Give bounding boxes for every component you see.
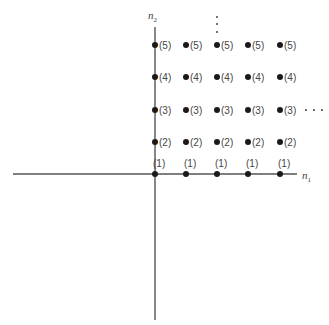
point-dot	[152, 139, 158, 145]
point-dot	[277, 171, 283, 177]
point-dot	[214, 171, 220, 177]
point-dot	[277, 42, 283, 48]
point-label: (2)	[190, 137, 202, 148]
point-label: (2)	[159, 137, 171, 148]
point-label: (1)	[246, 158, 258, 169]
point-label: (3)	[221, 105, 233, 116]
lattice-points: (5)(5)(5)(5)(5)(4)(4)(4)(4)(4)(3)(3)(3)(…	[152, 40, 296, 178]
lattice-point: (4)	[277, 72, 296, 83]
lattice-point: (3)	[277, 105, 296, 116]
point-dot	[152, 42, 158, 48]
point-dot	[183, 107, 189, 113]
point-label: (3)	[252, 105, 264, 116]
lattice-point: (4)	[245, 72, 264, 83]
point-label: (1)	[278, 158, 290, 169]
point-label: (5)	[159, 40, 171, 51]
point-label: (4)	[284, 72, 296, 83]
point-dot	[245, 107, 251, 113]
lattice-point: (2)	[183, 137, 202, 148]
lattice-point: (5)	[245, 40, 264, 51]
point-label: (2)	[221, 137, 233, 148]
point-dot	[183, 42, 189, 48]
point-dot	[245, 171, 251, 177]
point-label: (3)	[159, 105, 171, 116]
lattice-point: (3)	[214, 105, 233, 116]
point-dot	[277, 139, 283, 145]
lattice-point: (3)	[183, 105, 202, 116]
lattice-point: (5)	[214, 40, 233, 51]
point-label: (4)	[190, 72, 202, 83]
vertical-ellipsis	[216, 16, 218, 33]
point-dot	[183, 171, 189, 177]
lattice-point: (2)	[214, 137, 233, 148]
point-dot	[214, 42, 220, 48]
point-dot	[245, 74, 251, 80]
lattice-point: (4)	[214, 72, 233, 83]
lattice-point: (4)	[183, 72, 202, 83]
point-dot	[277, 107, 283, 113]
point-label: (4)	[159, 72, 171, 83]
point-label: (5)	[252, 40, 264, 51]
point-dot	[214, 74, 220, 80]
point-label: (2)	[252, 137, 264, 148]
lattice-diagram: n1 n2 (5)(5)(5)(5)(5)(4)(4)(4)(4)(4)(3)(…	[0, 0, 329, 325]
point-dot	[214, 107, 220, 113]
x-axis-label: n1	[302, 169, 312, 184]
lattice-point: (5)	[183, 40, 202, 51]
point-dot	[152, 171, 158, 177]
point-label: (3)	[190, 105, 202, 116]
point-label: (1)	[184, 158, 196, 169]
point-dot	[277, 74, 283, 80]
point-dot	[214, 139, 220, 145]
y-axis-label: n2	[148, 9, 158, 24]
point-label: (4)	[221, 72, 233, 83]
point-dot	[183, 74, 189, 80]
point-label: (4)	[252, 72, 264, 83]
point-dot	[245, 42, 251, 48]
point-dot	[245, 139, 251, 145]
point-dot	[152, 107, 158, 113]
horizontal-ellipsis	[305, 109, 323, 111]
point-dot	[152, 74, 158, 80]
point-label: (5)	[284, 40, 296, 51]
point-label: (5)	[221, 40, 233, 51]
point-label: (5)	[190, 40, 202, 51]
point-label: (1)	[215, 158, 227, 169]
lattice-point: (3)	[245, 105, 264, 116]
lattice-point: (2)	[245, 137, 264, 148]
lattice-point: (2)	[277, 137, 296, 148]
point-label: (1)	[153, 158, 165, 169]
point-label: (3)	[284, 105, 296, 116]
point-dot	[183, 139, 189, 145]
point-label: (2)	[284, 137, 296, 148]
lattice-point: (5)	[277, 40, 296, 51]
